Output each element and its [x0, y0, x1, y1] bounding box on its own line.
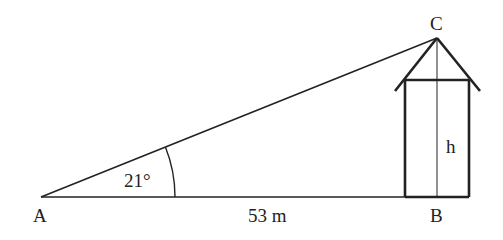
angle-arc [165, 147, 175, 197]
hypotenuse-AC [41, 38, 437, 197]
base-label: 53 m [248, 205, 287, 226]
roof-right [437, 38, 480, 91]
angle-label: 21° [124, 170, 151, 191]
height-label: h [446, 136, 456, 157]
triangle-diagram: 21° A B C 53 m h [0, 0, 503, 240]
point-label-C: C [430, 13, 443, 34]
point-label-B: B [430, 205, 443, 226]
point-label-A: A [33, 205, 47, 226]
